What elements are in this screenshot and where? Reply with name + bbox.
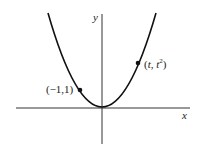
point-label-neg1-1: (−1,1) [46,83,73,95]
exponent: 2 [159,57,163,65]
point-t-t2 [136,61,141,66]
point-neg1-1 [78,88,83,93]
t-symbol: t [148,58,151,70]
point-label-t-t2: (t, t2) [144,57,166,70]
parabola-diagram [0,0,202,146]
y-axis-label: y [93,11,98,23]
x-axis-label: x [182,109,187,121]
